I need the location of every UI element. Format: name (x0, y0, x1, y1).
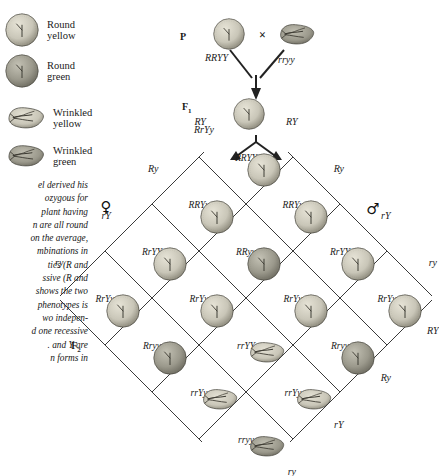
legend-round-yellow-icon (4, 12, 40, 48)
male-gamete-label-ry: ry (429, 257, 437, 268)
p-parent-right-pea (276, 22, 316, 46)
female-gamete-label-Ry: Ry (148, 163, 158, 174)
f1-generation-label: F1 (182, 101, 192, 115)
legend-round-green-icon (4, 53, 40, 89)
female-gamete-label-mirror-Ry: Ry (381, 371, 391, 382)
legend-wrinkled-green-icon (4, 134, 46, 177)
male-gamete-label-RY: RY (286, 116, 298, 127)
punnett-square: RRYY RRYy (60, 152, 432, 442)
female-gamete-label-ry: ry (55, 257, 63, 268)
male-gamete-label-Ry: Ry (334, 163, 344, 174)
legend-item-round-yellow: Round yellow (4, 12, 76, 48)
legend-item-wrinkled-yellow: Wrinkled yellow (4, 96, 92, 139)
f2-generation-label: F2 (71, 340, 81, 354)
cross-multiply-symbol: × (259, 28, 266, 43)
p-generation-label: P (180, 31, 186, 42)
legend-item-label: Round yellow (47, 19, 76, 41)
p-parent-left-genotype: RRYY (205, 52, 228, 63)
legend-item-round-green: Round green (4, 53, 75, 89)
p-parent-right-genotype: rryy (278, 54, 295, 65)
punnett-cell: rryy (215, 408, 277, 470)
f1-subscript: 1 (188, 107, 192, 115)
female-gamete-label-mirror-ry: ry (288, 465, 296, 476)
legend-wrinkled-yellow-icon (4, 96, 46, 139)
p-parent-left-pea (212, 17, 246, 51)
female-gamete-label-mirror-RY: RY (427, 324, 439, 335)
female-gamete-label-mirror-rY: rY (334, 418, 343, 429)
female-gamete-label-RY: RY (194, 116, 206, 127)
legend-item-label: Round green (47, 60, 75, 82)
legend-item-label: Wrinkled yellow (53, 107, 92, 129)
male-gamete-label-rY: rY (381, 210, 390, 221)
female-symbol: ♀ (101, 198, 112, 216)
f2-subscript: 2 (77, 346, 81, 354)
male-symbol: ♂ (366, 200, 379, 218)
